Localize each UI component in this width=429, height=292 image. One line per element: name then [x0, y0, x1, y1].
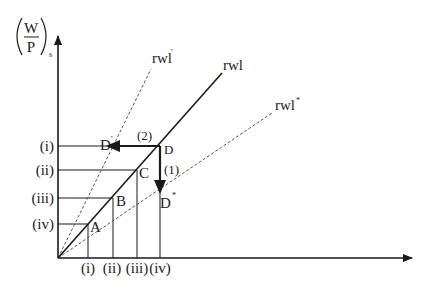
- y-axis-label: W P s: [17, 18, 52, 59]
- y-label-denominator: P: [27, 39, 35, 55]
- x-tick-ii: (ii): [103, 260, 121, 277]
- point-D-prime-mark: ': [111, 134, 113, 144]
- x-tick-iv: (iv): [149, 260, 171, 277]
- rwl-label: rwl: [223, 57, 243, 73]
- left-paren-icon: [17, 18, 22, 55]
- y-label-subscript: s: [49, 50, 52, 59]
- point-B-label: B: [116, 193, 126, 209]
- point-D-star-label: D: [160, 195, 171, 211]
- point-D-star-mark: *: [172, 191, 176, 200]
- wage-labor-diagram: W P s rwl rwl ' rwl * (i) (ii) (iii) (iv…: [0, 0, 429, 292]
- y-tick-ii: (ii): [36, 162, 54, 179]
- x-tick-iii: (iii): [126, 260, 149, 277]
- arrow-2-label: (2): [137, 128, 152, 143]
- y-tick-iv: (iv): [32, 216, 54, 233]
- arrow-1-label: (1): [164, 162, 179, 177]
- rwl-star-mark: *: [296, 96, 300, 105]
- right-paren-icon: [41, 18, 46, 55]
- point-A-label: A: [90, 219, 101, 235]
- y-tick-i: (i): [40, 138, 54, 155]
- rwl-star-curve: [58, 113, 272, 258]
- y-label-numerator: W: [24, 20, 39, 36]
- rwl-prime-label: rwl: [152, 50, 172, 66]
- rwl-star-label: rwl: [275, 97, 295, 113]
- x-tick-i: (i): [81, 260, 95, 277]
- point-D-label: D: [164, 142, 173, 157]
- rwl-prime-mark: ': [171, 47, 173, 57]
- point-D-prime-label: D: [100, 137, 111, 153]
- y-tick-iii: (iii): [32, 190, 55, 207]
- point-C-label: C: [139, 165, 149, 181]
